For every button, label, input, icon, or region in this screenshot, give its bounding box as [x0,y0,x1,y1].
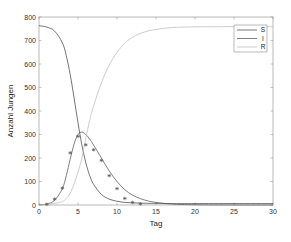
x-tick-label: 10 [113,208,121,215]
legend-label-i: I [262,35,264,42]
x-axis-label: Tag [150,219,163,228]
x-tick-label: 30 [269,208,277,215]
x-tick-label: 5 [76,208,80,215]
x-tick-label: 25 [230,208,238,215]
x-tick-label: 15 [152,208,160,215]
x-tick-label: 0 [37,208,41,215]
sir-chart: 0510152025300100200300400500600700800 Ta… [0,0,291,242]
y-tick-label: 700 [24,37,36,44]
y-tick-label: 100 [24,178,36,185]
legend-label-r: R [261,43,266,50]
y-tick-label: 0 [32,202,36,209]
legend: SIR [234,25,267,52]
x-tick-label: 20 [191,208,199,215]
y-tick-label: 500 [24,84,36,91]
y-tick-label: 200 [24,155,36,162]
y-axis-label: Anzahl Jungen [6,85,15,138]
y-tick-label: 600 [24,61,36,68]
legend-label-s: S [261,26,266,33]
y-tick-label: 800 [24,14,36,21]
y-tick-label: 400 [24,108,36,115]
y-tick-label: 300 [24,131,36,138]
